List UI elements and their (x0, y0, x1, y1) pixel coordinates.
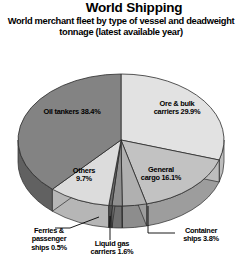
slice-label-oil-tankers: Oil tankers 38.4% (36, 108, 108, 116)
slice-label-line: cargo 16.1% (128, 174, 194, 182)
slice-label-container-ships: Container ships 3.8% (170, 227, 232, 244)
chart-page: World Shipping World merchant fleet by t… (0, 0, 242, 276)
slice-label-others: Others 9.7% (58, 167, 110, 184)
slice-label-line: 9.7% (58, 175, 110, 183)
slice-label-ferries-passenger-ships: Ferries & passenger ships 0.5% (21, 227, 77, 252)
slice-label-liquid-gas-carriers: Liquid gas carriers 1.6% (81, 240, 143, 257)
slice-label-line: ships 3.8% (170, 235, 232, 243)
slice-label-line: ships 0.5% (21, 244, 77, 252)
chart-subtitle: World merchant fleet by type of vessel a… (0, 16, 242, 37)
slice-label-general-cargo: General cargo 16.1% (128, 166, 194, 183)
chart-header: World Shipping World merchant fleet by t… (0, 0, 242, 37)
slice-label-line: carriers 29.9% (142, 108, 212, 116)
page-title: World Shipping (0, 1, 242, 15)
slice-label-ore-bulk-carriers: Ore & bulk carriers 29.9% (142, 100, 212, 117)
slice-label-line: carriers 1.6% (81, 248, 143, 256)
pie-top-faces (18, 74, 224, 206)
